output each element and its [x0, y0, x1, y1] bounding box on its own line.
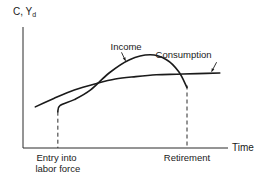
consumption-label: Consumption [156, 49, 212, 60]
retirement-label: Retirement [164, 152, 211, 163]
entry-label: Entry into labor force [35, 152, 80, 174]
consumption-curve [35, 73, 220, 107]
income-curve [58, 55, 187, 112]
x-axis-title: Time [232, 142, 254, 153]
y-axis-title: C, Yd [13, 6, 36, 18]
income-label: Income [111, 41, 142, 52]
life-cycle-chart: C, Yd Time Entry into labor force Retire… [0, 0, 269, 180]
